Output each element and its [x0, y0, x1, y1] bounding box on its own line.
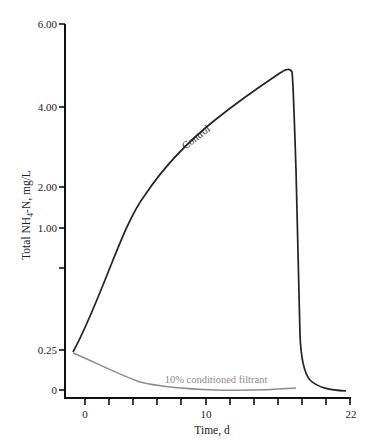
x-tick-label: 0: [82, 408, 88, 420]
x-tick-label: 10: [201, 408, 213, 420]
y-tick-label: 1.00: [38, 222, 58, 234]
x-axis-title: Time, d: [194, 424, 230, 437]
y-tick-label: 0.25: [38, 344, 58, 356]
y-tick-label: 4.00: [38, 101, 58, 113]
x-tick-labels: 0 10 22: [82, 408, 356, 420]
x-tick-label: 22: [346, 408, 357, 420]
y-tick-label: 2.00: [38, 181, 58, 193]
line-chart: 6.00 4.00 2.00 1.00 0.25 0 0 10 22 Time,…: [0, 0, 377, 447]
control-series-line: [73, 69, 346, 391]
y-tick-label: 0: [52, 384, 58, 396]
x-ticks: [85, 398, 350, 405]
control-series-label: Control: [180, 123, 212, 151]
y-tick-label: 6.00: [38, 18, 58, 30]
y-axis-title: Total NH4-N, mg/L: [20, 170, 35, 260]
y-tick-labels: 6.00 4.00 2.00 1.00 0.25 0: [38, 18, 58, 396]
filtrant-series-label: 10% conditioned filtrant: [165, 374, 268, 385]
